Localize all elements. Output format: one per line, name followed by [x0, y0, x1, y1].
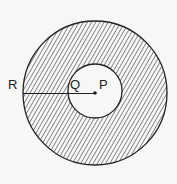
label-R: R	[8, 77, 17, 92]
label-P: P	[99, 77, 108, 92]
center-point-P	[93, 91, 97, 95]
label-Q: Q	[70, 77, 80, 92]
annulus-diagram: R Q P	[0, 0, 177, 184]
